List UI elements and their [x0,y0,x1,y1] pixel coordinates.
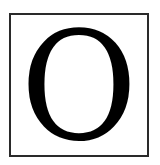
letter-frame: O [9,13,149,157]
letter-glyph: O [14,17,143,157]
